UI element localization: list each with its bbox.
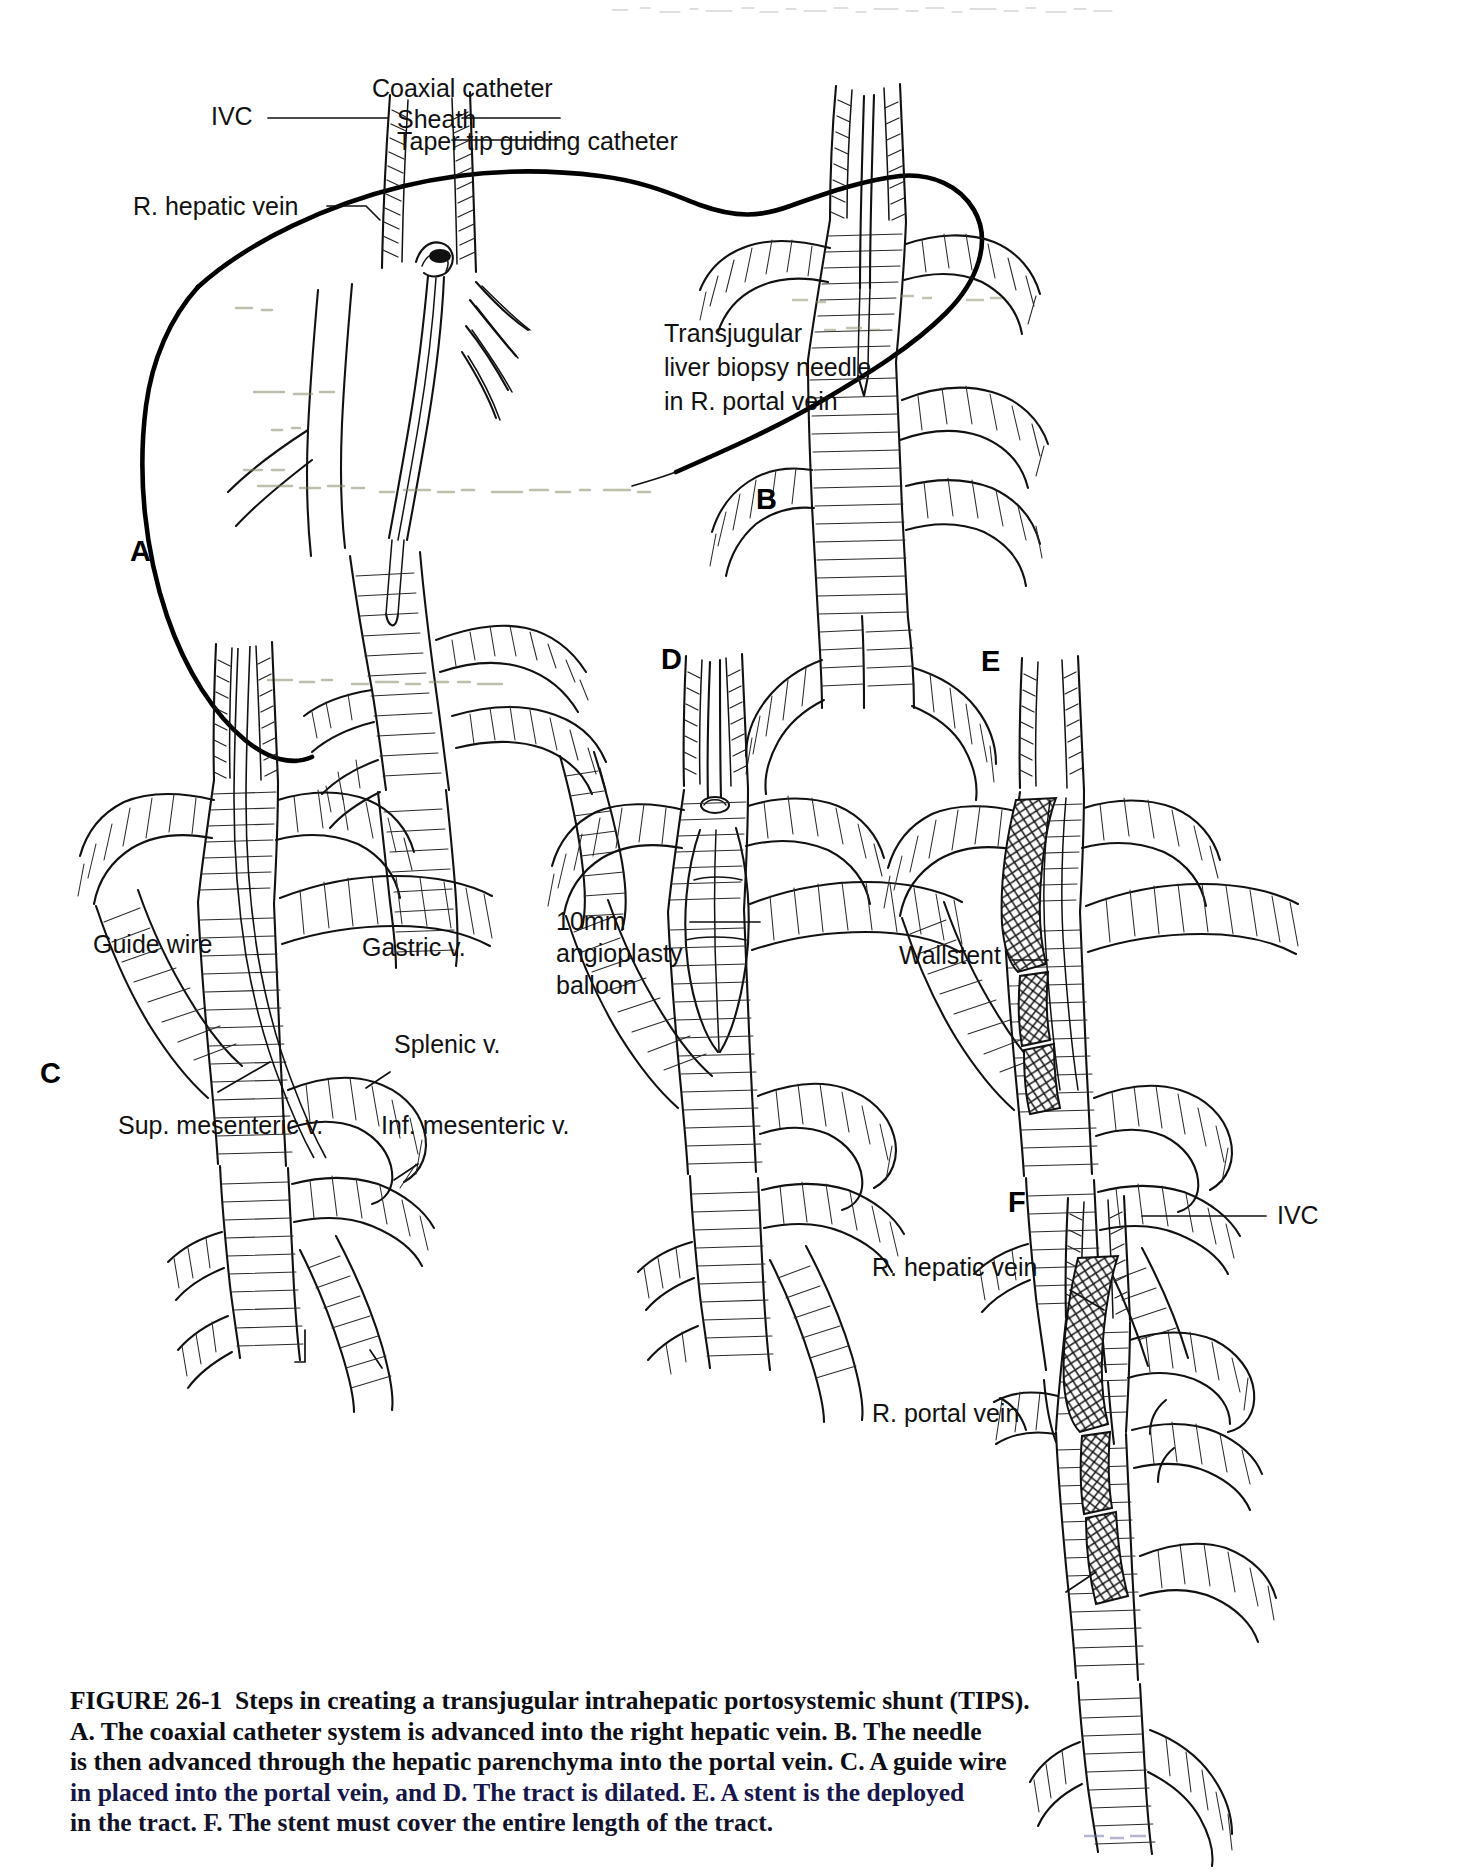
label-gastric-vein: Gastric v. (362, 932, 466, 963)
caption-line-1: FIGURE 26-1 Steps in creating a transjug… (70, 1686, 860, 1717)
label-inf-mesenteric-vein: Inf. mesenteric v. (381, 1110, 570, 1141)
label-needle-line3: in R. portal vein (664, 386, 838, 417)
label-guide-wire: Guide wire (93, 929, 213, 960)
page-top-artifact (612, 8, 1112, 12)
panel-letter-e: E (981, 645, 1000, 678)
panel-letter-d: D (661, 643, 682, 676)
panel-c-artwork (78, 642, 492, 1412)
leader-splenic (394, 1164, 418, 1180)
wallstent-mesh-f-lower (1086, 1512, 1128, 1604)
panel-e-artwork (884, 656, 1298, 1482)
label-balloon-line2: angioplasty (556, 938, 682, 969)
leader-gastric (366, 1072, 390, 1088)
panel-b-artwork (700, 84, 1048, 800)
wallstent-mesh-upper (1002, 798, 1056, 972)
figure-artwork: .s{fill:none;stroke:#111;stroke-width:2.… (0, 0, 1477, 1876)
leader-f-rpv (1066, 1572, 1096, 1592)
caption-line-2: A. The coaxial catheter system is advanc… (70, 1717, 860, 1748)
leader-f-rhv (1070, 1290, 1104, 1310)
wallstent-mesh-lower (1024, 1044, 1060, 1114)
panel-a-artwork (142, 92, 982, 968)
leader-guidewire (218, 1062, 270, 1092)
panel-d-artwork (548, 654, 962, 1422)
label-taper-tip-guiding-catheter: Taper tip guiding catheter (397, 126, 678, 157)
leader-rhv (327, 206, 380, 220)
label-needle-line1: Transjugular (664, 318, 802, 349)
label-needle-line2: liver biopsy needle (664, 352, 871, 383)
label-right-hepatic-vein-f: R. hepatic vein (872, 1252, 1037, 1283)
panel-letter-c: C (40, 1057, 61, 1090)
label-splenic-vein: Splenic v. (394, 1029, 501, 1060)
leader-smv (295, 1330, 305, 1362)
wallstent-mesh-f-mid (1081, 1432, 1112, 1514)
panel-letter-b: B (756, 483, 777, 516)
caption-line-4: in placed into the portal vein, and D. T… (70, 1778, 860, 1809)
panel-f-artwork (994, 1196, 1276, 1866)
label-balloon-line3: balloon (556, 970, 637, 1001)
panel-letter-a: A (130, 535, 151, 568)
label-ivc-a: IVC (211, 101, 253, 132)
caption-line-3: is then advanced through the hepatic par… (70, 1747, 860, 1778)
figure-26-1: .s{fill:none;stroke:#111;stroke-width:2.… (0, 0, 1477, 1876)
panel-letter-f: F (1008, 1186, 1026, 1219)
figure-caption: FIGURE 26-1 Steps in creating a transjug… (70, 1686, 860, 1839)
label-wallstent: Wallstent (899, 940, 1001, 971)
wallstent-mesh-mid (1019, 972, 1050, 1046)
label-coaxial-catheter: Coaxial catheter (372, 73, 553, 104)
caption-line-5: in the tract. F. The stent must cover th… (70, 1808, 860, 1839)
wallstent-mesh-f-upper (1064, 1256, 1118, 1432)
label-sup-mesenteric-vein: Sup. mesenteric v. (118, 1110, 323, 1141)
label-right-portal-vein-f: R. portal vein (872, 1398, 1019, 1429)
label-right-hepatic-vein-a: R. hepatic vein (133, 191, 298, 222)
liver-faded-markings (236, 308, 650, 684)
label-balloon-line1: 10mm (556, 906, 625, 937)
leader-imv (370, 1350, 382, 1368)
label-ivc-f: IVC (1277, 1200, 1319, 1231)
